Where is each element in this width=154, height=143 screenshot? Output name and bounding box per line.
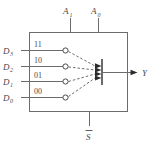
data-sub-d3: 3 [9, 51, 13, 57]
data-label-d2: D [2, 62, 10, 72]
multiplexer-diagram: A 1 A 0 D 3 11 D 2 10 D 1 01 D 0 00 [0, 0, 154, 143]
switch-contact-d3 [63, 48, 68, 53]
diagram-canvas: A 1 A 0 D 3 11 D 2 10 D 1 01 D 0 00 [0, 0, 154, 143]
data-code-d0: 00 [34, 87, 42, 96]
select-sub-a0: 0 [98, 12, 101, 18]
switch-contact-d1 [63, 79, 68, 84]
data-label-d0: D [2, 93, 10, 103]
output-arrowhead [131, 70, 138, 75]
select-label-a0: A [90, 6, 97, 16]
select-path-d2 [69, 67, 96, 70]
data-code-d1: 01 [34, 71, 42, 80]
switch-contact-d2 [63, 64, 68, 69]
select-label-a1: A [62, 6, 69, 16]
enable-label-s: S [86, 132, 91, 142]
data-label-d1: D [2, 77, 10, 87]
switch-contact-d0 [63, 95, 68, 100]
data-code-d2: 10 [34, 56, 42, 65]
select-path-d3 [69, 52, 96, 67]
data-label-d3: D [2, 46, 10, 56]
data-sub-d0: 0 [10, 98, 13, 104]
output-label-y: Y [142, 68, 148, 78]
select-path-d0 [69, 78, 96, 97]
data-code-d3: 11 [34, 40, 42, 49]
arrowhead-d0 [95, 75, 102, 80]
data-sub-d1: 1 [10, 82, 13, 88]
data-sub-d2: 2 [10, 67, 13, 73]
select-sub-a1: 1 [70, 12, 73, 18]
